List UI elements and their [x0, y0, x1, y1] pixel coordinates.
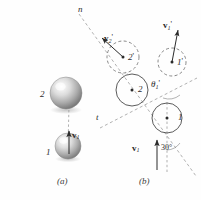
circle-1-center-dot [166, 117, 169, 120]
panel-b-caption: (b) [139, 176, 150, 186]
sphere-2-highlight [55, 83, 65, 91]
collision-figure: 2 1 v1 (a) n t v2' v1' 2' 1' 2 1 θ1' v1 … [0, 0, 201, 200]
velocity-1-after-label: v1' [163, 20, 172, 31]
panel-a-sphere-2-label: 2 [40, 89, 45, 99]
circle-1-label: 1 [178, 112, 183, 122]
velocity-2-after-prime: ' [112, 33, 113, 42]
circle-1-after-label: 1' [177, 57, 183, 67]
sphere-2 [50, 77, 82, 109]
angle-30-label: 30° [161, 143, 172, 152]
axis-n-label: n [78, 4, 83, 14]
velocity-2-after-label: v2' [104, 33, 113, 44]
angle-theta1-prime: ' [158, 79, 159, 88]
velocity-before-label: v1 [132, 143, 140, 153]
panel-a-graphics [50, 77, 82, 162]
panel-a-caption: (a) [57, 176, 68, 186]
panel-a-velocity-subscript: 1 [77, 134, 80, 140]
circle-2-after-label: 2' [128, 52, 134, 62]
panel-a-velocity-label: v1 [72, 130, 80, 140]
circle-1-after-prime: ' [182, 57, 183, 66]
axis-t-label: t [96, 112, 99, 122]
angle-theta1-arc [163, 95, 180, 99]
velocity-before-subscript: 1 [137, 147, 140, 153]
circle-2-after-prime: ' [133, 52, 134, 61]
velocity-1-after-prime: ' [171, 20, 172, 29]
panel-a-sphere-1-label: 1 [46, 147, 51, 157]
sphere-1-highlight [59, 137, 67, 143]
circle-2-center-dot [131, 89, 134, 92]
circle-2-label: 2 [138, 84, 143, 94]
angle-theta1-label: θ1' [151, 79, 160, 90]
